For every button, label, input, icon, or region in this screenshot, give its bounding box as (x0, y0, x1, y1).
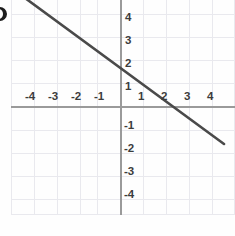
x-tick-label-neg2: -2 (66, 91, 86, 103)
y-tick-label-neg2: -2 (124, 143, 134, 155)
plot-area (0, 0, 235, 236)
x-tick-label-neg1: -1 (89, 91, 109, 103)
y-tick-label-3: 3 (125, 35, 131, 47)
y-tick-label-neg3: -3 (124, 166, 134, 178)
axes (11, 0, 235, 215)
x-tick-label-2: 2 (157, 91, 171, 103)
x-tick-label-3: 3 (180, 91, 194, 103)
y-tick-label-1: 1 (125, 81, 131, 93)
x-tick-label-1: 1 (134, 91, 148, 103)
y-tick-label-neg4: -4 (124, 189, 134, 201)
y-tick-label-2: 2 (125, 58, 131, 70)
x-tick-label-neg4: -4 (20, 91, 40, 103)
coordinate-graph: -4 -3 -2 -1 1 2 3 4 4 3 2 1 -1 -2 -3 -4 (0, 0, 235, 236)
grid-horizontal (11, 15, 235, 215)
x-tick-label-neg3: -3 (43, 91, 63, 103)
x-tick-label-4: 4 (203, 91, 217, 103)
y-tick-label-neg1: -1 (124, 120, 134, 132)
y-tick-label-4: 4 (125, 12, 131, 24)
